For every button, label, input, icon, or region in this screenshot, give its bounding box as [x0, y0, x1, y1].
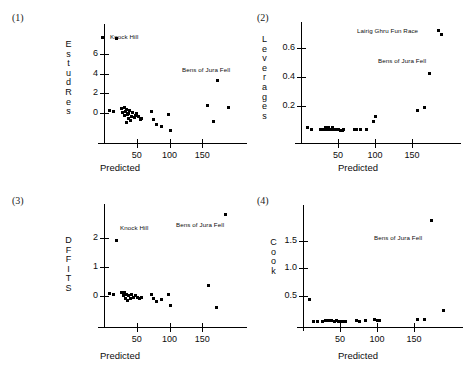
y-tick	[100, 93, 109, 94]
data-point	[150, 293, 153, 296]
y-axis-line	[104, 24, 105, 143]
y-tick	[100, 267, 109, 268]
y-tick	[297, 77, 306, 78]
x-tick-label: 150	[399, 334, 429, 344]
x-tick	[202, 323, 203, 332]
panel-3-x-axis-label: Predicted	[100, 350, 140, 361]
y-tick	[299, 241, 308, 242]
y-tick	[100, 54, 109, 55]
y-tick-label: 0.5	[269, 290, 297, 300]
data-point	[423, 318, 426, 321]
data-point	[430, 219, 433, 222]
data-point	[112, 293, 115, 296]
data-point	[365, 128, 368, 131]
y-axis-line	[301, 22, 302, 143]
x-tick-label: 50	[122, 150, 152, 160]
x-tick	[170, 139, 171, 148]
y-tick	[299, 268, 308, 269]
y-tick	[100, 113, 109, 114]
data-point	[416, 109, 419, 112]
data-point	[374, 115, 377, 118]
y-tick-label: 1.0	[269, 262, 297, 272]
data-point	[167, 293, 170, 296]
data-point	[364, 319, 367, 322]
y-tick-label: 0.6	[267, 42, 295, 52]
data-point	[115, 239, 118, 242]
x-tick	[170, 323, 171, 332]
x-axis-line	[295, 143, 461, 144]
data-point	[215, 306, 218, 309]
point-annotation-label: Knock Hill	[120, 224, 149, 231]
point-annotation-label: Bens of Jura Fell	[176, 221, 224, 228]
x-tick-label: 50	[122, 334, 152, 344]
x-tick-label: 50	[323, 150, 353, 160]
data-point	[125, 121, 128, 124]
data-point	[160, 298, 163, 301]
data-point	[355, 128, 358, 131]
data-point	[206, 104, 209, 107]
point-annotation-label: Bens of Jura Fell	[374, 234, 422, 241]
y-tick	[297, 106, 306, 107]
data-point	[312, 320, 315, 323]
data-point	[207, 284, 210, 287]
data-point	[442, 309, 445, 312]
panel-4: (4) Cook 0.51.01.550100150Bens of Jura F…	[240, 188, 457, 376]
x-tick-label: 100	[362, 334, 392, 344]
y-tick-label: 0	[70, 290, 98, 300]
point-annotation-label: Knock Hill	[110, 33, 139, 40]
panel-3: (3) DFFITS 01250100150Knock HillBens of …	[0, 188, 240, 376]
y-axis-line	[104, 204, 105, 327]
y-tick-label: 2	[70, 87, 98, 97]
x-axis-line	[98, 327, 247, 328]
x-tick-label: 50	[325, 334, 355, 344]
panel-2-plot-area: 0.20.40.650100150Lairig Ghru Fun RaceBen…	[240, 0, 457, 188]
data-point	[169, 129, 172, 132]
data-point	[316, 320, 319, 323]
y-tick	[100, 296, 109, 297]
data-point	[140, 296, 143, 299]
data-point	[344, 320, 347, 323]
y-tick	[100, 74, 109, 75]
data-point	[216, 79, 219, 82]
data-point	[140, 117, 143, 120]
y-tick	[297, 48, 306, 49]
y-tick-label: 1	[70, 261, 98, 271]
data-point	[416, 318, 419, 321]
data-point	[308, 298, 311, 301]
x-tick	[412, 139, 413, 148]
data-point	[155, 300, 158, 303]
data-point	[428, 72, 431, 75]
data-point	[359, 128, 362, 131]
x-tick-label: 150	[187, 150, 217, 160]
x-tick	[202, 139, 203, 148]
data-point	[129, 119, 132, 122]
data-point	[224, 213, 227, 216]
panel-2-x-axis-label: Predicted	[338, 162, 378, 173]
panel-4-x-axis-label: Predicted	[338, 350, 378, 361]
x-tick	[137, 323, 138, 332]
annotation-marker	[437, 29, 440, 32]
data-point	[169, 304, 172, 307]
y-tick-label: 0	[70, 107, 98, 117]
y-tick	[100, 238, 109, 239]
point-annotation-label: Lairig Ghru Fun Race	[357, 27, 418, 34]
panel-2: (2) Leverages 0.20.40.650100150Lairig Gh…	[240, 0, 457, 188]
data-point	[150, 110, 153, 113]
data-point	[155, 123, 158, 126]
x-axis-line	[297, 327, 463, 328]
y-tick-label: 1.5	[269, 235, 297, 245]
panel-4-plot-area: 0.51.01.550100150Bens of Jura Fell	[240, 188, 457, 376]
y-tick-label: 0.4	[267, 71, 295, 81]
y-tick	[299, 296, 308, 297]
data-point	[440, 33, 443, 36]
data-point	[167, 113, 170, 116]
data-point	[160, 125, 163, 128]
y-tick-label: 6	[70, 48, 98, 58]
data-point	[227, 106, 230, 109]
point-annotation-label: Bens of Jura Fell	[378, 57, 426, 64]
panel-1-plot-area: 024650100150Knock HillBens of Jura Fell	[0, 0, 240, 188]
data-point	[358, 320, 361, 323]
x-tick	[137, 139, 138, 148]
point-annotation-label: Bens of Jura Fell	[182, 66, 230, 73]
